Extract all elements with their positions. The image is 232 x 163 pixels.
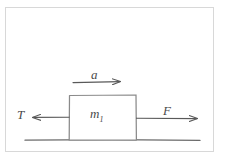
free-body-diagram xyxy=(0,0,232,163)
applied-force-label: F xyxy=(163,104,171,117)
block-mass-label: m1 xyxy=(90,107,103,124)
block-mass-symbol: m xyxy=(90,106,99,121)
tension-label: T xyxy=(17,108,24,121)
figure-canvas: a T F m1 xyxy=(0,0,232,163)
block-mass-subscript: 1 xyxy=(99,115,103,124)
acceleration-label: a xyxy=(91,68,98,81)
